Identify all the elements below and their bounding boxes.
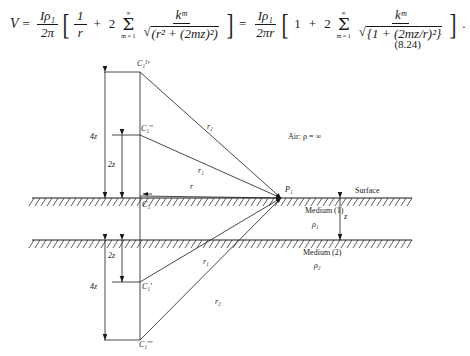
label-dimension-4z-bottom: 4z [90,282,97,291]
bracket-close-1: ] [226,12,233,36]
label-ray-r1-top: r₁ [198,166,204,175]
sum-lower-limit-2: m = 1 [337,33,351,39]
equation-number: (8.24) [394,38,421,50]
sigma-glyph-1: Σ [122,16,134,33]
label-c1-iv: C₁ᴵᵛ [137,59,149,68]
term1-denominator: r [75,25,86,40]
plus-sign-1: + [90,16,105,32]
bracket-open-2: [ [282,12,289,36]
trailing-period: . [458,16,469,32]
summand-fraction-2: kᵐ √ {1 + (2mz/r)²} [353,8,448,40]
plus-sign-2: + [305,16,320,32]
label-ray-r1-bottom: r₁ [203,257,209,266]
label-dimension-z-thickness: z [344,212,347,221]
summand-numerator-2: kᵐ [392,8,409,24]
term-one-over-r: 1 r [71,9,90,39]
label-dimension-2z-top: 2z [108,160,115,169]
summation-symbol-1: ∞ Σ m = 1 [119,10,137,39]
equation-8-24: V = Iρ₁ 2π [ 1 r + 2 ∞ Σ m = 1 kᵐ √ (r² … [10,8,470,40]
coefficient-denominator-2: 2πr [253,25,277,40]
summation-symbol-2: ∞ Σ m = 1 [335,10,353,39]
equation-equals-sign: = [19,16,34,32]
figure-diagram: C₁ᴵᵛ C₁′′ C₁ C₁′ C₁′′′ P₁ r₂ r₁ r r₁ r₂ … [0,54,433,356]
label-ray-r2-top: r₂ [207,122,213,131]
coefficient-fraction-2: Iρ₁ 2πr [250,9,280,39]
surface-hatching [29,198,412,206]
equation-equals-sign-2: = [235,16,250,32]
label-ray-r2-bottom: r₂ [215,297,221,306]
coefficient-numerator-1: Iρ₁ [37,9,58,25]
medium-boundary-hatching [29,240,412,248]
label-c1-triple-prime: C₁′′′ [139,340,152,349]
label-rho-1: ρ₁ [312,220,319,229]
sigma-glyph-2: Σ [338,16,350,33]
radical-1: √ (r² + (2mz)²) [143,25,219,41]
ray-r1-top [140,135,281,198]
label-p1: P₁ [285,185,293,194]
term-one: 1 [290,16,305,32]
coefficient-numerator-2: Iρ₁ [255,9,276,25]
radical-sign-icon-1: √ [143,25,150,38]
factor-two-1: 2 [105,16,120,32]
summand-denominator-1: √ (r² + (2mz)²) [140,24,222,41]
bracket-close-2: ] [450,12,457,36]
figure-svg [0,54,433,356]
label-rho-2: ρ₂ [314,261,321,270]
label-air-region: Air: ρ = ∞ [288,132,321,141]
equation-lhs-variable: V [10,16,19,32]
label-dimension-2z-bottom: 2z [108,251,115,260]
coefficient-denominator-1: 2π [38,25,57,40]
summand-fraction-1: kᵐ √ (r² + (2mz)²) [137,8,225,40]
label-c1-prime: C₁′ [142,282,152,291]
label-medium-1: Medium (1) [305,206,343,215]
label-ray-r-direct: r [190,182,193,191]
ray-r2-top [140,72,281,198]
term1-numerator: 1 [74,9,87,25]
label-c1-double-prime: C₁′′ [141,124,153,133]
radical-body-1: (r² + (2mz)²) [151,26,219,41]
label-c1-source: C₁ [142,200,150,209]
equation-block: V = Iρ₁ 2π [ 1 r + 2 ∞ Σ m = 1 kᵐ √ (r² … [0,2,433,54]
radical-sign-icon-2: √ [359,25,366,38]
sum-lower-limit-1: m = 1 [121,33,135,39]
bracket-open-1: [ [63,12,70,36]
label-surface: Surface [355,186,379,195]
coefficient-fraction-1: Iρ₁ 2π [34,9,61,39]
label-medium-2: Medium (2) [303,248,341,257]
factor-two-2: 2 [320,16,335,32]
summand-numerator-1: kᵐ [173,8,190,24]
label-dimension-4z-top: 4z [90,132,97,141]
